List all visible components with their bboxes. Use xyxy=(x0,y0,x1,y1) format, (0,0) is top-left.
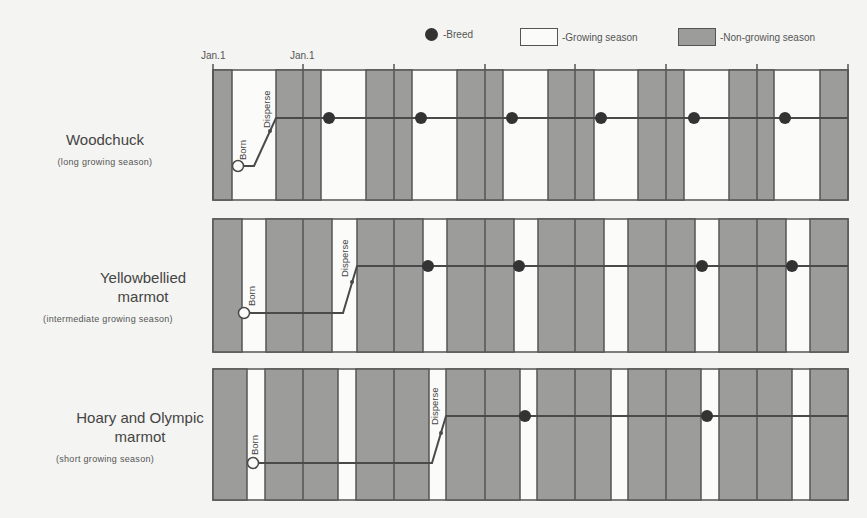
panel-woodchuck xyxy=(213,64,848,200)
born-label: Born xyxy=(246,286,257,306)
born-circle-icon xyxy=(248,458,259,469)
disperse-label: Disperse xyxy=(339,240,350,278)
born-circle-icon xyxy=(233,161,244,172)
born-label: Born xyxy=(237,140,248,160)
disperse-label: Disperse xyxy=(261,91,272,129)
born-circle-icon xyxy=(239,308,250,319)
timeline-diagram: Born Disperse Born Disperse Born Dispers… xyxy=(0,0,867,518)
disperse-label: Disperse xyxy=(429,388,440,426)
born-label: Born xyxy=(249,435,260,455)
panel-hoary-olympic xyxy=(213,369,848,500)
panel-yellowbellied xyxy=(213,219,848,352)
